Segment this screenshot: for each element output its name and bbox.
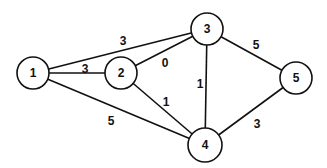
edge-weight-4-5: 3 xyxy=(254,117,261,131)
edge-weight-3-4: 1 xyxy=(197,77,204,91)
node-label: 4 xyxy=(202,138,209,152)
edge-weight-3-5: 5 xyxy=(253,38,260,52)
nodes: 12345 xyxy=(17,13,312,162)
edge-weight-2-3: 0 xyxy=(162,56,169,70)
edge-weight-1-2: 3 xyxy=(82,62,89,76)
node-3: 3 xyxy=(191,13,223,45)
node-label: 3 xyxy=(204,22,211,36)
node-4: 4 xyxy=(188,128,222,162)
node-1: 1 xyxy=(17,57,49,89)
node-label: 2 xyxy=(118,66,125,80)
edge-weight-2-4: 1 xyxy=(163,95,170,109)
edge-weight-1-4: 5 xyxy=(108,114,115,128)
node-label: 5 xyxy=(293,71,300,85)
node-label: 1 xyxy=(30,66,37,80)
edge-weight-1-3: 3 xyxy=(120,34,127,48)
node-5: 5 xyxy=(280,62,312,94)
graph-diagram: 33051153 12345 xyxy=(0,0,327,168)
edges: 33051153 xyxy=(33,29,296,145)
node-2: 2 xyxy=(105,57,137,89)
